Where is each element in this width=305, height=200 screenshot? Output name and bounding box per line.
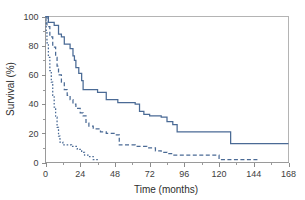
x-tick-label: 48: [110, 169, 120, 179]
survival-chart-figure: 024487296120144168 020406080100 Time (mo…: [0, 0, 305, 200]
x-tick-label: 24: [75, 169, 85, 179]
y-axis-tick-labels: 020406080100: [23, 12, 38, 168]
plot-frame: [46, 17, 289, 163]
axis-ticks: [42, 18, 290, 167]
x-axis-tick-labels: 024487296120144168: [43, 169, 296, 179]
survival-curves: [46, 17, 289, 160]
y-tick-label: 80: [28, 41, 38, 51]
x-tick-label: 72: [145, 169, 155, 179]
x-tick-label: 144: [246, 169, 261, 179]
y-axis-title: Survival (%): [5, 62, 16, 116]
x-tick-label: 168: [281, 169, 296, 179]
y-tick-label: 20: [28, 129, 38, 139]
y-tick-label: 40: [28, 99, 38, 109]
y-tick-label: 0: [33, 158, 38, 168]
curve-1-solid: [46, 17, 289, 144]
x-tick-label: 0: [43, 169, 48, 179]
y-tick-label: 100: [23, 12, 38, 22]
kaplan-meier-chart: 024487296120144168 020406080100 Time (mo…: [0, 0, 305, 200]
x-axis-title: Time (months): [134, 184, 198, 195]
curve-2-dashed: [46, 17, 259, 160]
x-tick-label: 120: [212, 169, 227, 179]
x-tick-label: 96: [179, 169, 189, 179]
curve-3-dotted: [46, 17, 100, 160]
y-tick-label: 60: [28, 70, 38, 80]
